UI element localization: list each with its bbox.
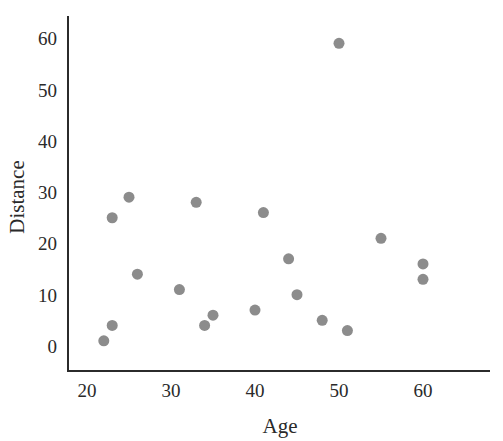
data-point <box>418 258 429 269</box>
x-axis-label: Age <box>263 414 298 438</box>
x-tick-label: 60 <box>414 380 433 401</box>
data-point <box>342 325 353 336</box>
data-point <box>107 212 118 223</box>
data-point <box>124 192 135 203</box>
scatter-chart: 0102030405060 2030405060 Age Distance <box>0 0 503 441</box>
data-points <box>98 38 428 347</box>
y-tick-label: 40 <box>38 131 57 152</box>
data-point <box>250 305 261 316</box>
data-point <box>334 38 345 49</box>
data-point <box>199 320 210 331</box>
data-point <box>132 269 143 280</box>
data-point <box>292 289 303 300</box>
data-point <box>376 233 387 244</box>
y-axis-label: Distance <box>5 160 29 233</box>
x-tick-label: 40 <box>246 380 265 401</box>
x-tick-label: 30 <box>162 380 181 401</box>
data-point <box>418 274 429 285</box>
data-point <box>107 320 118 331</box>
x-tick-label: 50 <box>330 380 349 401</box>
data-point <box>317 315 328 326</box>
data-point <box>208 310 219 321</box>
data-point <box>98 335 109 346</box>
y-tick-label: 20 <box>38 233 57 254</box>
y-tick-label: 60 <box>38 28 57 49</box>
x-tick-label: 20 <box>78 380 97 401</box>
y-tick-label: 10 <box>38 285 57 306</box>
data-point <box>283 253 294 264</box>
y-tick-label: 0 <box>48 336 58 357</box>
data-point <box>191 197 202 208</box>
y-tick-label: 30 <box>38 182 57 203</box>
x-axis-ticks: 2030405060 <box>78 380 433 401</box>
y-tick-label: 50 <box>38 80 57 101</box>
data-point <box>174 284 185 295</box>
data-point <box>258 207 269 218</box>
y-axis-ticks: 0102030405060 <box>38 28 57 357</box>
